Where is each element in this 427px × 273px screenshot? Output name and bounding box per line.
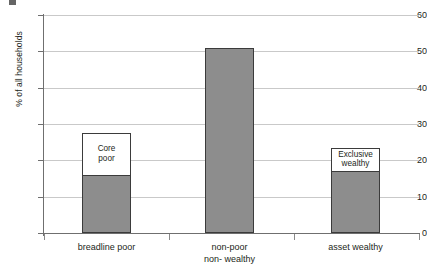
bar-shaded-fill bbox=[205, 48, 254, 233]
category-label-line2: non- wealthy bbox=[170, 253, 290, 265]
x-axis-category-label: breadline poor bbox=[47, 241, 167, 253]
category-label-line1: non-poor bbox=[211, 242, 247, 252]
x-axis-tick bbox=[294, 234, 295, 240]
category-label-line1: asset wealthy bbox=[328, 242, 383, 252]
bar-shaded-fill bbox=[331, 171, 380, 233]
gridline bbox=[44, 15, 419, 16]
x-axis-line bbox=[44, 233, 420, 234]
bar-chart-figure: % of all households 0102030405060 Corepo… bbox=[0, 0, 427, 273]
x-axis-tick bbox=[169, 234, 170, 240]
category-label-line1: breadline poor bbox=[78, 242, 136, 252]
plot-area: CorepoorExclusivewealthy bbox=[44, 15, 419, 233]
y-axis-title: % of all households bbox=[14, 4, 24, 134]
bar-shaded-fill bbox=[82, 175, 131, 233]
x-axis-tick bbox=[419, 234, 420, 240]
x-axis-tick bbox=[44, 234, 45, 240]
x-axis-category-label: asset wealthy bbox=[296, 241, 416, 253]
x-axis-category-label: non-poornon- wealthy bbox=[170, 241, 290, 265]
